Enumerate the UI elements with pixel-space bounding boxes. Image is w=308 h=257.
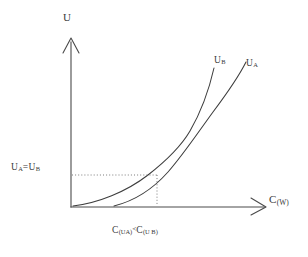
x-axis-label-subscript: (W) xyxy=(277,198,289,207)
curve-label-ub-subscript: B xyxy=(221,58,225,65)
x-axis-label: C(W) xyxy=(269,194,289,205)
curve-label-ua: UA xyxy=(246,59,258,69)
y-axis-label: U xyxy=(63,12,71,23)
curve-label-ua-subscript: A xyxy=(253,61,258,68)
curve-ub xyxy=(73,68,214,206)
figure-canvas xyxy=(0,0,308,257)
utility-curves-figure: U C(W) UB UA UA=UB C(UA)<C(U B) xyxy=(0,0,308,257)
curve-label-ub: UB xyxy=(214,56,225,66)
figure-caption: C(UA)<C(U B) xyxy=(112,226,158,236)
equal-utility-label: UA=UB xyxy=(11,163,40,173)
